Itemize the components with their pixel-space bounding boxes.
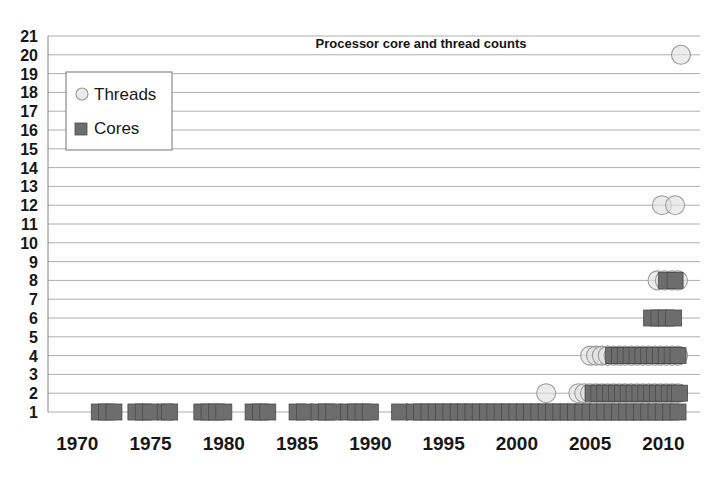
y-tick-label: 21 <box>20 28 38 45</box>
chart-title: Processor core and thread counts <box>316 36 527 51</box>
y-tick-label: 17 <box>20 103 38 120</box>
chart-canvas: 123456789101112131415161718192021 197019… <box>0 0 708 477</box>
y-tick-label: 19 <box>20 66 38 83</box>
y-tick-label: 9 <box>29 254 38 271</box>
x-tick-label: 2000 <box>496 433 538 454</box>
processor-core-thread-chart: 123456789101112131415161718192021 197019… <box>0 0 708 477</box>
y-tick-label: 12 <box>20 197 38 214</box>
x-tick-label: 1985 <box>276 433 319 454</box>
x-tick-label: 1970 <box>56 433 98 454</box>
y-tick-label: 13 <box>20 178 38 195</box>
y-tick-label: 7 <box>29 291 38 308</box>
x-tick-label: 2010 <box>642 433 684 454</box>
data-point-core <box>296 404 312 420</box>
x-tick-label: 2005 <box>569 433 612 454</box>
y-tick-label: 10 <box>20 235 38 252</box>
data-point-core <box>260 404 276 420</box>
y-tick-label: 16 <box>20 122 38 139</box>
data-point-core <box>143 404 159 420</box>
data-point-core <box>667 272 683 288</box>
legend-box <box>66 72 172 150</box>
y-tick-label: 1 <box>29 404 38 421</box>
y-tick-label: 3 <box>29 366 38 383</box>
y-tick-label: 11 <box>21 216 38 233</box>
x-tick-label: 1990 <box>349 433 391 454</box>
data-point-core <box>326 404 342 420</box>
x-tick-label: 1975 <box>129 433 172 454</box>
y-tick-label: 6 <box>29 310 38 327</box>
y-tick-label: 4 <box>29 348 38 365</box>
y-tick-label: 20 <box>20 47 38 64</box>
data-point-core <box>162 404 178 420</box>
data-point-core <box>670 404 686 420</box>
y-tick-label: 14 <box>20 160 38 177</box>
y-tick-label: 5 <box>29 329 38 346</box>
x-axis-tick-labels: 197019751980198519901995200020052010 <box>56 433 684 454</box>
data-point-core <box>670 348 686 364</box>
legend-marker-cores-icon <box>75 123 87 135</box>
y-tick-label: 15 <box>20 141 38 158</box>
legend-label-threads: Threads <box>94 85 156 104</box>
data-point-thread <box>666 196 685 215</box>
chart-legend: Threads Cores <box>66 72 172 150</box>
y-tick-label: 8 <box>29 272 38 289</box>
data-point-core <box>216 404 232 420</box>
data-point-core <box>392 404 408 420</box>
data-point-thread <box>671 45 690 64</box>
y-tick-label: 2 <box>29 385 38 402</box>
x-tick-label: 1980 <box>203 433 245 454</box>
data-point-core <box>362 404 378 420</box>
data-point-core <box>666 310 682 326</box>
data-point-core <box>671 385 687 401</box>
legend-marker-threads-icon <box>76 88 88 100</box>
x-tick-label: 1995 <box>422 433 465 454</box>
y-tick-label: 18 <box>20 84 38 101</box>
data-point-thread <box>537 384 556 403</box>
legend-label-cores: Cores <box>94 119 139 138</box>
data-point-core <box>106 404 122 420</box>
